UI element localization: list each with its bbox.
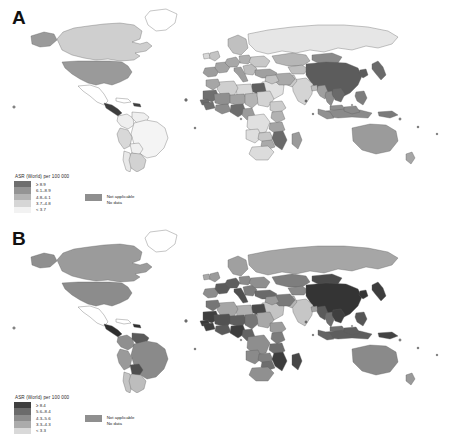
island-marker <box>305 321 307 323</box>
legend-not-applicable-group: Not applicable No data <box>85 415 135 427</box>
country-kazakhstan <box>272 53 310 66</box>
island-marker <box>436 133 438 135</box>
legend-class-label: 3.7–4.8 <box>36 201 51 206</box>
country-peru <box>117 349 132 370</box>
country-mexico <box>78 306 108 326</box>
legend-class-label: ≥ 8.9 <box>36 182 46 187</box>
legend-swatch-not-applicable <box>85 194 102 201</box>
island-marker <box>185 99 188 102</box>
island-marker <box>240 118 242 120</box>
panel-b-legend: ASR (World) per 100 000 ≥ 8.4 5.6–8.4 4.… <box>14 395 334 434</box>
legend-class-label: 3.3–4.3 <box>36 422 51 427</box>
legend-class-label: 4.8–6.1 <box>36 195 51 200</box>
legend-class-label: 6.1–8.9 <box>36 188 51 193</box>
island-marker <box>417 347 419 349</box>
country-guinea <box>203 323 215 331</box>
island-marker <box>13 106 16 109</box>
country-peru <box>117 128 132 149</box>
legend-no-data-label: No data <box>107 421 135 427</box>
country-kazakhstan <box>272 274 310 287</box>
country-guinea <box>203 102 215 110</box>
country-png <box>378 111 398 118</box>
country-newzealand <box>406 373 415 385</box>
island-marker <box>13 327 16 330</box>
legend-class: < 3.7 <box>14 207 51 213</box>
world-map-a <box>0 6 450 172</box>
country-scandinavia <box>228 35 248 55</box>
country-cuba <box>116 319 131 324</box>
island-marker <box>185 320 188 323</box>
legend-title: ASR (World) per 100 000 <box>15 174 334 179</box>
country-kenya <box>271 332 285 344</box>
country-bangladesh <box>311 306 318 312</box>
island-marker <box>351 325 353 327</box>
country-mexico <box>78 85 108 105</box>
island-marker <box>240 339 242 341</box>
island-marker <box>399 339 401 341</box>
country-hispaniola <box>133 324 141 328</box>
world-map-b <box>0 227 450 393</box>
country-southafrica <box>249 367 274 381</box>
island-marker <box>351 104 353 106</box>
country-russia <box>248 246 398 275</box>
legend-class-label: 4.3–5.6 <box>36 416 51 421</box>
country-madagascar <box>292 353 302 370</box>
country-japan <box>372 282 386 301</box>
country-cuba <box>116 98 131 103</box>
country-hispaniola <box>133 103 141 107</box>
country-usa <box>62 282 132 306</box>
country-southafrica <box>249 146 274 160</box>
country-centralasia <box>288 286 308 295</box>
country-alaska <box>31 32 57 47</box>
island-marker <box>305 100 307 102</box>
island-marker <box>399 118 401 120</box>
legend-swatch <box>14 428 31 434</box>
island-marker <box>436 354 438 356</box>
country-colombia <box>117 114 134 129</box>
country-alaska <box>31 253 57 268</box>
legend-class-label: < 3.7 <box>36 207 46 212</box>
country-madagascar <box>292 132 302 149</box>
country-uk <box>209 272 220 282</box>
panel-b: B ASR (World) per 100 000 ≥ 8.4 5.6–8.4 … <box>0 221 450 442</box>
panel-a-map <box>0 6 450 172</box>
panel-a: A ASR (World) per 100 000 ≥ 8.9 6.1–8.9 … <box>0 0 450 221</box>
country-japan <box>372 61 386 80</box>
country-centralamerica <box>104 324 122 337</box>
country-bangladesh <box>311 85 318 91</box>
legend-swatch-not-applicable <box>85 415 102 422</box>
legend-not-applicable-group: Not applicable No data <box>85 194 135 206</box>
country-australia <box>352 124 398 154</box>
legend-class-label: ≥ 8.4 <box>36 403 46 408</box>
legend-title: ASR (World) per 100 000 <box>15 395 334 400</box>
country-png <box>378 332 398 339</box>
island-marker <box>312 334 314 336</box>
panel-a-legend: ASR (World) per 100 000 ≥ 8.9 6.1–8.9 4.… <box>14 174 334 213</box>
country-greenland <box>145 230 177 252</box>
island-marker <box>312 113 314 115</box>
island-marker <box>194 127 196 129</box>
country-usa <box>62 61 132 85</box>
legend-no-data-label: No data <box>107 200 135 206</box>
legend-class: < 3.3 <box>14 428 51 434</box>
country-philippines <box>355 91 367 105</box>
country-chad <box>245 314 259 329</box>
country-canada <box>57 23 152 61</box>
country-australia <box>352 345 398 375</box>
country-newzealand <box>406 152 415 164</box>
country-russia <box>248 25 398 54</box>
legend-ramp: ≥ 8.4 5.6–8.4 4.3–5.6 3.3–4.3 < 3.3 <box>14 402 51 434</box>
country-uk <box>209 51 220 61</box>
legend-ramp: ≥ 8.9 6.1–8.9 4.8–6.1 3.7–4.8 < 3.7 <box>14 181 51 213</box>
country-centralasia <box>288 65 308 74</box>
country-ireland <box>203 274 210 280</box>
country-colombia <box>117 335 134 350</box>
country-centralamerica <box>104 103 122 116</box>
country-philippines <box>355 312 367 326</box>
island-marker <box>417 126 419 128</box>
panel-b-map <box>0 227 450 393</box>
country-ghana <box>215 104 231 114</box>
legend-swatch <box>14 207 31 213</box>
country-ghana <box>215 325 231 335</box>
country-greenland <box>145 9 177 31</box>
